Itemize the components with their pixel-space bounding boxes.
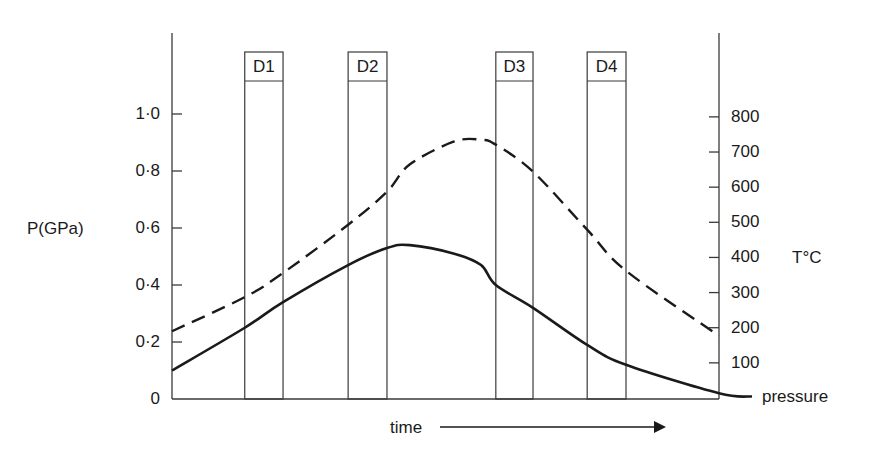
- right-tick-label: 800: [731, 108, 759, 125]
- left-tick-label: 0·6: [120, 219, 160, 236]
- right-tick-label: 700: [731, 143, 759, 160]
- phase-label: D3: [496, 53, 533, 81]
- phase-box: [587, 52, 626, 399]
- left-tick-label: 0·4: [120, 276, 160, 293]
- y-axis-left-label: P(GPa): [27, 220, 84, 237]
- y-axis-right-label: T°C: [792, 249, 821, 266]
- phase-label: D2: [348, 53, 387, 81]
- right-tick-label: 200: [731, 319, 759, 336]
- phase-label: D1: [245, 53, 283, 81]
- arrowhead-icon: [654, 421, 666, 433]
- right-tick-label: 500: [731, 213, 759, 230]
- right-tick-label: 300: [731, 284, 759, 301]
- phase-label: D4: [587, 53, 626, 81]
- phase-box: [496, 52, 533, 399]
- right-tick-label: 400: [731, 248, 759, 265]
- deformation-phase-boxes: [245, 52, 626, 399]
- pressure-curve-label: pressure: [762, 388, 828, 405]
- temperature-curve: [172, 139, 719, 336]
- axes: [172, 33, 719, 399]
- phase-box: [245, 52, 283, 399]
- right-tick-label: 600: [731, 178, 759, 195]
- time-arrow: [440, 421, 666, 433]
- phase-box: [348, 52, 387, 399]
- left-tick-label: 0·8: [120, 162, 160, 179]
- left-tick-label: 0·2: [120, 333, 160, 350]
- right-tick-label: 100: [731, 354, 759, 371]
- left-tick-label: 0: [120, 390, 160, 407]
- pressure-curve: [172, 245, 752, 397]
- left-tick-label: 1·0: [120, 105, 160, 122]
- x-axis-label: time: [390, 419, 422, 436]
